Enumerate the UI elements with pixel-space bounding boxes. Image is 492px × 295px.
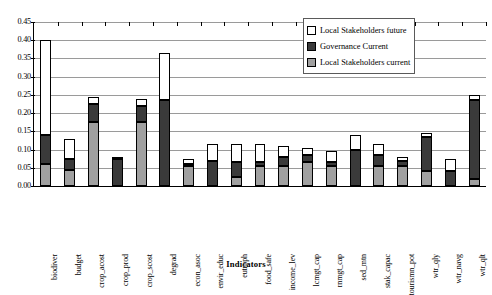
bar-segment xyxy=(469,100,480,178)
bar-segment xyxy=(231,177,242,186)
bar-group xyxy=(278,22,289,186)
y-axis-tick-label: 0.05 xyxy=(3,164,31,172)
bar-segment xyxy=(397,157,408,161)
bar-segment xyxy=(302,148,313,155)
bar-group xyxy=(255,22,266,186)
x-axis-tick-mark xyxy=(129,22,130,26)
bar-segment xyxy=(183,166,194,186)
bar-group xyxy=(231,22,242,186)
bar-segment xyxy=(40,164,51,186)
bar-group xyxy=(469,22,480,186)
bar-segment xyxy=(231,162,242,177)
bar-segment xyxy=(159,53,170,100)
bar-segment xyxy=(231,144,242,162)
bar-segment xyxy=(112,157,123,159)
bar-segment xyxy=(445,159,456,172)
bar-segment xyxy=(373,155,384,166)
bar-segment xyxy=(40,135,51,164)
bar-segment xyxy=(350,135,361,150)
bar-segment xyxy=(183,159,194,164)
bar-group xyxy=(88,22,99,186)
legend-item: Governance Current xyxy=(307,38,410,54)
bar-segment xyxy=(112,159,123,186)
bar-segment xyxy=(397,166,408,186)
y-axis-tick-labels: 0.450.400.350.300.250.200.150.100.050.00 xyxy=(0,0,31,284)
bar-group xyxy=(207,22,218,186)
y-axis-tick-label: 0.35 xyxy=(3,54,31,62)
y-axis-tick-label: 0.10 xyxy=(3,146,31,154)
bar-group xyxy=(445,22,456,186)
y-axis-tick-label: 0.15 xyxy=(3,127,31,135)
bar-group xyxy=(136,22,147,186)
x-axis-title: Indicators xyxy=(0,259,492,269)
bar-segment xyxy=(445,171,456,186)
legend-swatch xyxy=(307,42,316,51)
x-axis-tick-mark xyxy=(462,22,463,26)
legend-swatch xyxy=(307,26,316,35)
bar-segment xyxy=(255,162,266,166)
x-axis-tick-mark xyxy=(58,22,59,26)
legend-label: Local Stakeholders current xyxy=(320,58,410,67)
bar-segment xyxy=(278,166,289,186)
bar-segment xyxy=(88,122,99,186)
legend-item: Local Stakeholders current xyxy=(307,54,410,70)
y-axis-tick-label: 0.25 xyxy=(3,91,31,99)
y-axis-tick-label: 0.40 xyxy=(3,36,31,44)
x-axis-tick-mark xyxy=(224,22,225,26)
bar-segment xyxy=(302,162,313,186)
chart-legend: Local Stakeholders futureGovernance Curr… xyxy=(303,18,415,74)
bar-segment xyxy=(183,164,194,166)
bar-segment xyxy=(326,166,337,186)
plot-area xyxy=(33,22,486,187)
bar-segment xyxy=(278,157,289,166)
x-axis-tick-mark xyxy=(82,22,83,26)
bar-segment xyxy=(326,151,337,162)
y-axis-tick-label: 0.00 xyxy=(3,182,31,190)
bar-segment xyxy=(326,162,337,166)
bar-segment xyxy=(136,122,147,186)
bar-segment xyxy=(469,95,480,100)
x-axis-tick-mark xyxy=(272,22,273,26)
x-axis-tick-mark xyxy=(177,22,178,26)
bar-series-container xyxy=(34,22,486,186)
bar-segment xyxy=(255,166,266,186)
x-axis-tick-labels: biodiverbudgetcrop_acostcrop_prodcrop_sc… xyxy=(33,188,485,256)
bar-segment xyxy=(136,106,147,122)
bar-segment xyxy=(278,146,289,157)
bar-group xyxy=(64,22,75,186)
bar-segment xyxy=(373,144,384,155)
bar-group xyxy=(421,22,432,186)
y-axis-tick-label: 0.45 xyxy=(3,18,31,26)
x-axis-tick-mark xyxy=(201,22,202,26)
legend-label: Governance Current xyxy=(320,42,388,51)
bar-segment xyxy=(159,100,170,186)
y-axis-tick-mark xyxy=(31,186,35,187)
x-axis-tick-mark xyxy=(438,22,439,26)
bar-segment xyxy=(469,179,480,186)
bar-segment xyxy=(421,137,432,172)
bar-segment xyxy=(373,166,384,186)
bar-segment xyxy=(255,144,266,162)
bar-segment xyxy=(64,159,75,170)
y-axis-tick-label: 0.20 xyxy=(3,109,31,117)
bar-segment xyxy=(88,104,99,122)
bar-group xyxy=(159,22,170,186)
bar-segment xyxy=(207,144,218,160)
bar-segment xyxy=(397,161,408,166)
bar-group xyxy=(112,22,123,186)
bar-segment xyxy=(421,171,432,186)
x-axis-tick-mark xyxy=(153,22,154,26)
x-axis-tick-mark xyxy=(296,22,297,26)
legend-item: Local Stakeholders future xyxy=(307,22,410,38)
bar-segment xyxy=(88,97,99,104)
bar-segment xyxy=(302,155,313,162)
bar-segment xyxy=(350,150,361,186)
bar-group xyxy=(183,22,194,186)
bar-segment xyxy=(207,161,218,187)
legend-swatch xyxy=(307,58,316,67)
y-axis-tick-label: 0.30 xyxy=(3,73,31,81)
bar-segment xyxy=(64,139,75,159)
bar-segment xyxy=(40,40,51,135)
bar-segment xyxy=(421,133,432,137)
